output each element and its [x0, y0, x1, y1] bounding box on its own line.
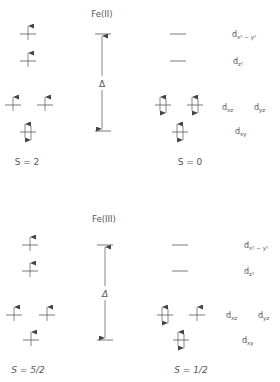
fe3-title: Fe(III): [92, 214, 116, 224]
fe2-ls-dxz-level: [155, 97, 171, 113]
fe3-delta-label: Δ: [101, 289, 108, 299]
fe2-orbital-labels: dx² − y²dz²dxzdyzdxy: [222, 30, 265, 138]
fe2-ls-dxy-level: [172, 124, 188, 140]
fe3-label-dxy: dxy: [242, 336, 254, 347]
fe2-high-spin-label: S = 2: [15, 157, 40, 167]
fe3-ls-dyz-level: [189, 307, 205, 321]
fe3-orbital-labels: dx² − y²dz²dxzdyzdxy: [226, 241, 269, 347]
fe2-hs-dz2-level: [20, 53, 36, 67]
fe2-label-dx2-y2: dx² − y²: [232, 30, 256, 41]
fe2-title: Fe(II): [91, 9, 112, 19]
fe3-hs-dyz-level: [39, 307, 55, 321]
fe2-hs-dxz-level: [5, 97, 21, 111]
fe3-low-spin: [157, 245, 205, 348]
fe3-hs-dxy-level: [23, 332, 39, 346]
fe2-hs-dyz-level: [37, 97, 53, 111]
fe3-label-dx2-y2: dx² − y²: [244, 241, 268, 252]
fe2-label-dz2: dz²: [233, 57, 243, 67]
fe3-hs-dx2-y2-level: [22, 237, 38, 251]
fe3-high-spin: [6, 237, 55, 346]
fe2-delta-label: Δ: [99, 79, 106, 89]
fe3-hs-dz2-level: [22, 263, 38, 277]
d-orbital-splitting-diagram: Fe(II) Δ dx² − y²dz²dxzdyzdxy S = 2 S = …: [0, 0, 280, 382]
fe3-label-dz2: dz²: [244, 267, 254, 277]
fe2-ls-dyz-level: [187, 97, 203, 113]
fe2-label-dyz: dyz: [254, 103, 265, 114]
fe2-hs-dx2-y2-level: [20, 26, 36, 40]
fe2-high-spin: [5, 26, 53, 140]
fe3-panel: Fe(III) Δ dx² − y²dz²dxzdyzdxy S = 5/2 S…: [6, 214, 269, 375]
fe2-label-dxy: dxy: [235, 127, 247, 138]
fe3-ls-dxz-level: [157, 307, 173, 323]
fe3-hs-dxz-level: [6, 307, 22, 321]
fe2-panel: Fe(II) Δ dx² − y²dz²dxzdyzdxy S = 2 S = …: [5, 9, 265, 167]
fe3-ls-dxy-level: [173, 332, 189, 348]
fe3-low-spin-label: S = 1/2: [174, 365, 208, 375]
fe3-high-spin-label: S = 5/2: [11, 365, 45, 375]
fe3-label-dxz: dxz: [226, 311, 237, 321]
fe2-label-dxz: dxz: [222, 103, 233, 113]
fe2-low-spin: [155, 34, 203, 140]
fe2-low-spin-label: S = 0: [178, 157, 203, 167]
fe3-delta-gap: Δ: [97, 245, 113, 340]
fe3-label-dyz: dyz: [258, 311, 269, 322]
fe2-hs-dxy-level: [20, 124, 36, 140]
fe2-delta-gap: Δ: [95, 34, 111, 131]
